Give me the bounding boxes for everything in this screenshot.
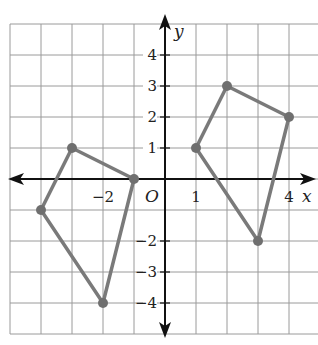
coordinate-plane: −2144321−2−3−4 y x O xyxy=(0,0,318,345)
axes xyxy=(8,14,316,338)
y-tick-label: 2 xyxy=(147,108,157,126)
vertex-point xyxy=(36,205,46,215)
y-tick-label: 3 xyxy=(147,77,157,95)
y-axis-label: y xyxy=(173,21,184,41)
y-tick-label: 1 xyxy=(147,139,157,157)
x-tick-label: 1 xyxy=(191,188,201,206)
vertex-point xyxy=(191,143,201,153)
vertex-point xyxy=(222,81,232,91)
vertex-point xyxy=(253,236,263,246)
vertex-point xyxy=(98,298,108,308)
y-tick-label: 4 xyxy=(147,46,157,64)
vertex-point xyxy=(284,112,294,122)
right-quadrilateral xyxy=(196,86,289,241)
y-tick-label: −4 xyxy=(135,294,157,312)
x-tick-label: −2 xyxy=(92,188,114,206)
vertex-point xyxy=(67,143,77,153)
vertex-point xyxy=(129,174,139,184)
x-tick-label: 4 xyxy=(284,188,294,206)
left-quadrilateral xyxy=(41,148,134,303)
y-tick-label: −3 xyxy=(135,263,157,281)
origin-label: O xyxy=(145,186,159,206)
x-axis-label: x xyxy=(302,186,312,206)
y-tick-label: −2 xyxy=(135,232,157,250)
